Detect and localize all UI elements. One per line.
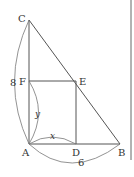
measure-ad: x bbox=[50, 131, 55, 141]
segment-cb bbox=[29, 20, 120, 144]
label-b: B bbox=[118, 147, 125, 158]
measure-af: y bbox=[34, 109, 41, 119]
label-f: F bbox=[19, 76, 26, 87]
geometry-diagram: C F E A D B 8 6 x y bbox=[0, 0, 134, 177]
label-c: C bbox=[18, 13, 26, 24]
measure-ab: 6 bbox=[78, 157, 84, 168]
label-a: A bbox=[21, 147, 30, 158]
measure-ac: 8 bbox=[10, 77, 16, 88]
label-e: E bbox=[79, 76, 86, 87]
